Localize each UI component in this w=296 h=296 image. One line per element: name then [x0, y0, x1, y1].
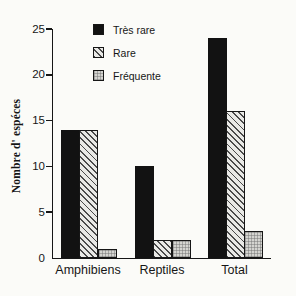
- bar-total-frequente: [244, 231, 263, 258]
- bar-amphibiens-frequente: [98, 249, 117, 258]
- y-tick-mark-10: [46, 166, 52, 168]
- y-tick-mark-20: [46, 74, 52, 76]
- y-tick-mark-5: [46, 211, 52, 213]
- legend-label: Rare: [113, 47, 136, 59]
- bar-amphibiens-rare: [79, 130, 98, 258]
- y-tick-mark-15: [46, 120, 52, 122]
- plot-area: [52, 29, 271, 259]
- legend-label: Fréquente: [113, 70, 161, 82]
- bar-chart-figure: Nombre d' espéces Très rareRareFréquente…: [0, 0, 296, 296]
- bar-reptiles-frequente: [172, 240, 191, 258]
- y-axis-title: Nombre d' espéces: [10, 88, 22, 204]
- legend-item-tres-rare: Très rare: [93, 18, 161, 41]
- x-category-label-total: Total: [195, 263, 275, 277]
- y-tick-label-10: 10: [15, 161, 45, 172]
- bar-total-tres-rare: [208, 38, 227, 258]
- y-tick-label-0: 0: [15, 253, 45, 264]
- y-tick-label-5: 5: [15, 207, 45, 218]
- legend-swatch-solid-icon: [93, 24, 104, 35]
- bar-reptiles-rare: [153, 240, 172, 258]
- bar-total-rare: [226, 111, 245, 258]
- y-tick-label-15: 15: [15, 115, 45, 126]
- y-tick-mark-25: [46, 28, 52, 30]
- legend-swatch-stipple-icon: [93, 70, 104, 81]
- legend-item-frequente: Fréquente: [93, 64, 161, 87]
- x-category-label-amphibiens: Amphibiens: [48, 263, 128, 277]
- legend-label: Très rare: [113, 24, 155, 36]
- legend: Très rareRareFréquente: [93, 18, 161, 87]
- bar-amphibiens-tres-rare: [61, 130, 80, 258]
- y-tick-label-25: 25: [15, 24, 45, 35]
- y-tick-label-20: 20: [15, 69, 45, 80]
- bar-reptiles-tres-rare: [135, 166, 154, 258]
- legend-item-rare: Rare: [93, 41, 161, 64]
- x-category-label-reptiles: Reptiles: [122, 263, 202, 277]
- legend-swatch-diagonal-hatch-icon: [93, 47, 104, 58]
